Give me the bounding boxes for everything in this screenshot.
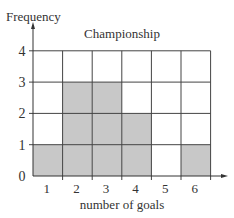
- x-tick-labels: 123456: [44, 181, 199, 196]
- chart-title: Championship: [84, 26, 160, 41]
- y-tick-label: 1: [19, 138, 26, 153]
- bar-1: [33, 145, 63, 176]
- bar-6: [181, 145, 211, 176]
- y-tick-label: 3: [19, 75, 26, 90]
- y-tick-label: 0: [19, 169, 26, 184]
- y-tick-label: 2: [19, 106, 26, 121]
- bar-3: [92, 82, 122, 176]
- x-tick-label: 4: [132, 181, 139, 196]
- x-tick-label: 5: [162, 181, 169, 196]
- x-tick-label: 6: [192, 181, 199, 196]
- y-tick-label: 4: [19, 44, 26, 59]
- x-tick-label: 1: [44, 181, 51, 196]
- y-tick-labels: 01234: [19, 44, 26, 184]
- bar-2: [63, 82, 93, 176]
- x-tick-label: 2: [73, 181, 80, 196]
- y-axis-label: Frequency: [6, 9, 61, 24]
- histogram-chart: 01234 123456 Frequency Championship numb…: [0, 0, 234, 218]
- x-axis-arrow-icon: [221, 174, 228, 178]
- x-tick-label: 3: [103, 181, 110, 196]
- x-axis-label: number of goals: [80, 197, 164, 212]
